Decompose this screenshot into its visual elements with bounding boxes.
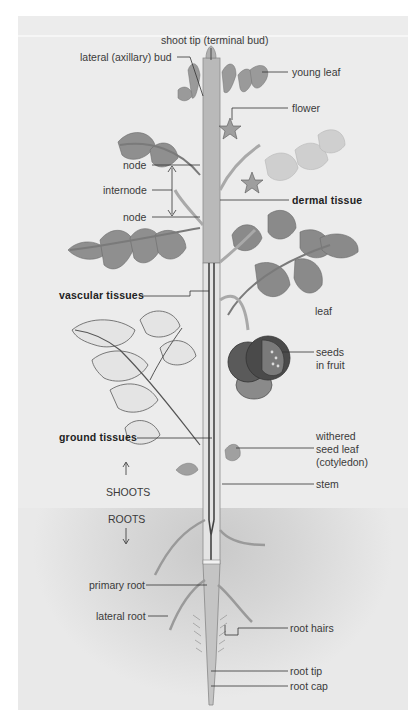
plant-illustration [0, 0, 412, 722]
label-leaf: leaf [315, 305, 332, 317]
cotyledon-left [176, 463, 198, 475]
label-vascular-tissues: vascular tissues [59, 289, 144, 301]
label-node-lower: node [123, 211, 146, 223]
label-internode: internode [103, 184, 147, 196]
stem-cutaway [203, 263, 220, 563]
label-root-cap: root cap [290, 680, 328, 692]
label-withered-2: seed leaf [316, 443, 359, 455]
label-shoot-tip: shoot tip (terminal bud) [161, 34, 268, 46]
label-root-tip: root tip [290, 665, 322, 677]
cotyledon-right [225, 444, 240, 460]
young-leaves [178, 64, 268, 101]
label-young-leaf: young leaf [292, 66, 340, 78]
label-seeds-1: seeds [316, 346, 344, 358]
label-lateral-bud: lateral (axillary) bud [80, 51, 172, 63]
fruit-stalk [220, 296, 248, 330]
label-roots: ROOTS [108, 513, 145, 525]
label-flower: flower [292, 102, 320, 114]
primary-root [203, 563, 220, 705]
label-primary-root: primary root [89, 579, 145, 591]
label-node-upper: node [123, 159, 146, 171]
label-ground-tissues: ground tissues [59, 431, 137, 443]
label-lateral-root: lateral root [96, 610, 146, 622]
stem-upper [203, 58, 220, 263]
label-root-hairs: root hairs [290, 622, 334, 634]
leaf-cluster-right [232, 210, 358, 296]
label-dermal-tissue: dermal tissue [292, 194, 362, 206]
label-withered-3: (cotyledon) [316, 456, 368, 468]
leaf-outline-left [72, 311, 196, 444]
leaf-cluster-faded [265, 130, 345, 181]
label-withered-1: withered [316, 430, 356, 442]
label-stem: stem [316, 478, 339, 490]
label-seeds-2: in fruit [316, 359, 345, 371]
label-shoots: SHOOTS [106, 486, 150, 498]
stem-cut-ring [203, 560, 220, 564]
branch-left [175, 190, 203, 225]
